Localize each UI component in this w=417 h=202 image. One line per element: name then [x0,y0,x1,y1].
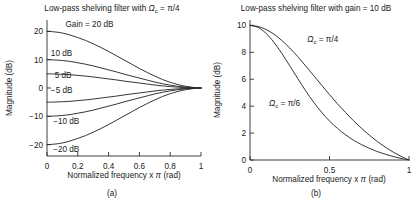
x-tick-label: 0 [45,162,50,171]
chart-a-title-suffix: = π/4 [158,4,180,13]
chart-a-title: Low-pass shelving filter with Ωc = π/4 [44,4,180,14]
curve-label: −10 dB [53,117,80,126]
chart-a-xlabel: Normalized frequency x π (rad) [67,171,181,180]
curve--c-4 [250,25,409,160]
panel-caption-a: (a) [107,189,117,198]
curve-label: Gain = 20 dB [65,20,114,29]
chart-panel-b: Low-pass shelving filter with gain = 10 … [209,0,417,202]
chart-b-curve-labels: Ωc = π/4Ωc = π/6 [269,35,339,110]
y-tick-label: 2 [241,129,246,138]
x-tick-label: 1 [407,166,412,175]
chart-a-title-prefix: Low-pass shelving filter with [44,4,148,13]
curve-label: 10 dB [51,49,73,58]
y-tick-label: 6 [241,75,246,84]
x-tick-label: 0 [248,166,253,175]
y-tick-label: 20 [34,27,44,36]
chart-panel-a: Low-pass shelving filter with Ωc = π/4 −… [0,0,209,202]
chart-b-xlabel: Normalized frequency x π (rad) [272,175,386,184]
curve-label: Ωc = π/6 [269,99,300,109]
chart-a-y-ticks: −20−1001020 [29,27,51,149]
chart-a-x-ticks: 00.20.40.60.81 [45,152,204,171]
x-tick-label: 0.4 [103,162,115,171]
chart-b-title: Low-pass shelving filter with gain = 10 … [241,4,392,13]
curve-label: −5 dB [51,86,73,95]
chart-b-curves [250,25,409,160]
chart-a-svg: Low-pass shelving filter with Ωc = π/4 −… [0,0,209,202]
curve-label: −20 dB [53,145,80,154]
chart-a-curve-labels: Gain = 20 dB10 dB5 dB−5 dB−10 dB−20 dB [51,20,114,154]
y-tick-label: 4 [241,102,246,111]
chart-a-ylabel: Magnitude (dB) [5,60,14,116]
figure-container: Low-pass shelving filter with Ωc = π/4 −… [0,0,417,202]
chart-b-ylabel: Magnitude (dB) [213,62,222,118]
y-tick-label: 0 [38,84,43,93]
y-tick-label: −20 [29,141,43,150]
chart-b-svg: Low-pass shelving filter with gain = 10 … [209,0,417,202]
panel-caption-b: (b) [311,189,321,198]
y-tick-label: 10 [237,21,247,30]
y-tick-label: 10 [34,56,44,65]
chart-b-x-ticks: 00.51 [248,156,412,175]
x-tick-label: 0.8 [165,162,177,171]
x-tick-label: 0.2 [72,162,84,171]
curve--c-6 [250,25,409,160]
curve-label: 5 dB [55,71,72,80]
curve-label: Ωc = π/4 [307,35,338,45]
y-tick-label: −10 [29,112,43,121]
chart-b-y-ticks: 0246810 [237,21,254,165]
x-tick-label: 0.5 [324,166,336,175]
x-tick-label: 1 [199,162,204,171]
x-tick-label: 0.6 [134,162,146,171]
y-tick-label: 8 [241,48,246,57]
y-tick-label: 0 [241,156,246,165]
